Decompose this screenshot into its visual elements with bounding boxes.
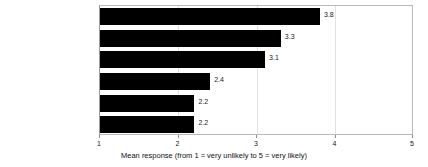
bar-work-daily-commute[interactable] bbox=[100, 73, 210, 90]
plot-area: 3.8 3.3 3.1 2.4 2.2 2.2 bbox=[99, 5, 413, 135]
x-tick-mark bbox=[256, 135, 257, 138]
bar-row: 2.2 bbox=[100, 114, 412, 136]
bar-value-label: 3.1 bbox=[269, 53, 279, 62]
bar-value-label: 2.2 bbox=[199, 97, 209, 106]
x-tick-label: 3 bbox=[254, 139, 258, 148]
bar-shopping[interactable] bbox=[100, 95, 194, 112]
bar-row: 3.8 bbox=[100, 6, 412, 28]
bar-chart-screenshot: 3.8 3.3 3.1 2.4 2.2 2.2 Business Social … bbox=[0, 0, 428, 167]
bar-recreational-activities[interactable] bbox=[100, 51, 265, 68]
x-tick-label: 4 bbox=[333, 139, 337, 148]
x-tick-mark bbox=[178, 135, 179, 138]
x-axis-title: Mean response (from 1 = very unlikely to… bbox=[0, 151, 428, 161]
bar-business[interactable] bbox=[100, 8, 320, 25]
bar-education[interactable] bbox=[100, 116, 194, 133]
bar-row: 2.4 bbox=[100, 71, 412, 93]
bar-value-label: 3.8 bbox=[324, 10, 334, 19]
bar-value-label: 3.3 bbox=[285, 32, 295, 41]
bar-value-label: 2.2 bbox=[199, 118, 209, 127]
bar-value-label: 2.4 bbox=[214, 75, 224, 84]
x-tick-label: 2 bbox=[176, 139, 180, 148]
x-tick-label: 5 bbox=[410, 139, 414, 148]
x-tick-mark bbox=[335, 135, 336, 138]
bar-social-activities[interactable] bbox=[100, 30, 281, 47]
bar-row: 3.1 bbox=[100, 49, 412, 71]
x-tick-mark bbox=[412, 135, 413, 138]
bar-row: 3.3 bbox=[100, 28, 412, 50]
x-tick-label: 1 bbox=[97, 139, 101, 148]
bar-row: 2.2 bbox=[100, 93, 412, 115]
x-tick-mark bbox=[99, 135, 100, 138]
